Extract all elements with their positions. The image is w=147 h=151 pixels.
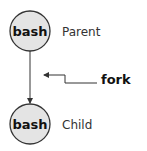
parent-process-label: bash xyxy=(12,24,47,39)
fork-diagram: bash Parent fork bash Child xyxy=(0,0,147,151)
child-node: bash xyxy=(10,104,50,144)
parent-role-label: Parent xyxy=(62,25,101,39)
fork-label: fork xyxy=(101,72,131,87)
child-process-label: bash xyxy=(12,117,47,132)
fork-arrow xyxy=(44,75,97,83)
diagram-canvas: bash Parent fork bash Child xyxy=(0,0,147,151)
parent-node: bash xyxy=(10,11,50,51)
child-role-label: Child xyxy=(62,118,92,132)
